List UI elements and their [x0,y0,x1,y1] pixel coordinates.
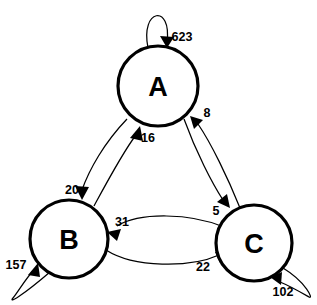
edge-c-to-a[interactable]: 8 [190,106,240,208]
node-a-label: A [148,72,168,102]
edge-a-to-c-path [184,119,223,200]
edge-label-b-to-c: 22 [196,260,210,274]
edge-label-c-to-c: 102 [273,285,294,299]
edge-c-to-b-path [117,216,224,227]
edge-label-c-to-b: 31 [115,215,129,229]
edge-label-a-to-a: 623 [172,30,193,44]
edge-a-to-b[interactable]: 20 [65,119,127,200]
node-c-label: C [244,229,264,259]
edge-a-to-a[interactable]: 623 [147,16,193,48]
edge-b-to-a-path [94,135,136,206]
edge-label-c-to-a: 8 [204,106,211,120]
node-b[interactable]: B [30,200,108,278]
edge-label-a-to-b: 20 [65,183,79,197]
edge-b-to-a[interactable]: 16 [94,126,155,206]
state-diagram-canvas: 623 157 102 20 16 5 [0,0,317,305]
node-b-label: B [59,225,79,255]
edge-c-to-b[interactable]: 31 [107,215,224,241]
edge-label-a-to-c: 5 [213,204,220,218]
node-c[interactable]: C [216,205,292,281]
state-transition-diagram: 623 157 102 20 16 5 [0,0,317,305]
edge-label-b-to-a: 16 [141,131,155,145]
node-a[interactable]: A [118,46,198,126]
edge-c-to-a-arrowhead [190,116,203,129]
edge-label-b-to-b: 157 [6,258,27,272]
edge-b-to-c[interactable]: 22 [106,250,229,274]
edge-a-to-b-path [82,119,127,190]
